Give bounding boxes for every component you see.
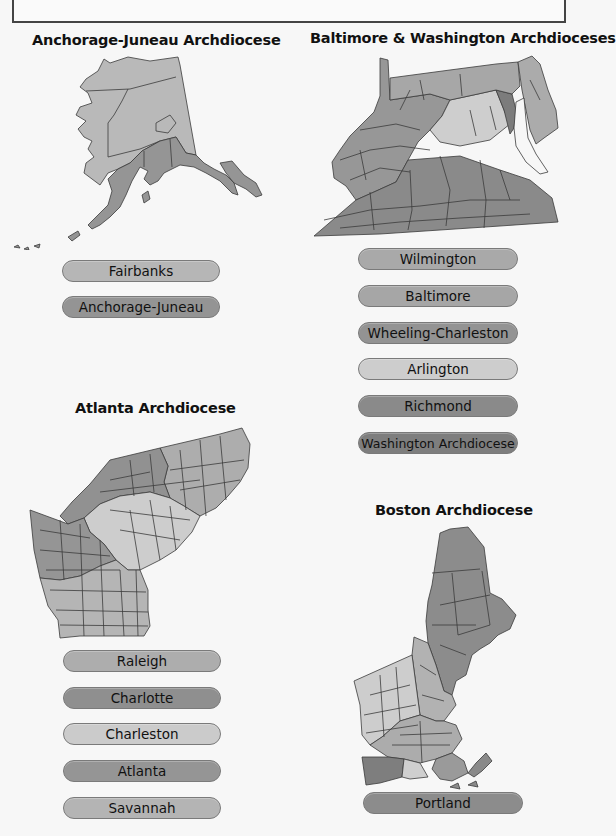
diocese-savannah: Savannah — [63, 797, 221, 819]
diocese-fairbanks: Fairbanks — [62, 260, 220, 282]
diocese-portland: Portland — [363, 792, 523, 814]
southeast-map — [0, 420, 290, 645]
diocese-label: Charlotte — [111, 690, 174, 706]
baltimore-washington-title: Baltimore & Washington Archdioceses — [310, 30, 616, 46]
diocese-label: Baltimore — [405, 288, 470, 304]
header-box — [12, 0, 566, 23]
diocese-label: Washington Archdiocese — [361, 436, 514, 451]
diocese-label: Wheeling-Charleston — [367, 325, 508, 341]
diocese-label: Fairbanks — [109, 263, 173, 279]
diocese-charlotte: Charlotte — [63, 687, 221, 709]
diocese-anchorage-juneau: Anchorage-Juneau — [62, 296, 220, 318]
diocese-richmond: Richmond — [358, 395, 518, 417]
diocese-label: Charleston — [105, 726, 178, 742]
diocese-label: Arlington — [407, 361, 469, 377]
diocese-label: Portland — [415, 795, 471, 811]
diocese-label: Anchorage-Juneau — [79, 299, 204, 315]
diocese-charleston: Charleston — [63, 723, 221, 745]
diocese-atlanta: Atlanta — [63, 760, 221, 782]
diocese-arlington: Arlington — [358, 358, 518, 380]
diocese-label: Wilmington — [400, 251, 477, 267]
boston-title: Boston Archdiocese — [375, 502, 533, 518]
diocese-label: Atlanta — [118, 763, 166, 779]
virginia-maryland-map — [300, 50, 579, 245]
diocese-wheeling-charleston: Wheeling-Charleston — [358, 322, 518, 344]
diocese-raleigh: Raleigh — [63, 650, 221, 672]
diocese-label: Savannah — [108, 800, 175, 816]
diocese-wilmington: Wilmington — [358, 248, 518, 270]
new-england-map — [340, 525, 540, 790]
diocese-washington: Washington Archdiocese — [358, 432, 518, 454]
diocese-label: Richmond — [404, 398, 472, 414]
alaska-map — [0, 45, 290, 250]
diocese-baltimore: Baltimore — [358, 285, 518, 307]
atlanta-title: Atlanta Archdiocese — [75, 400, 236, 416]
diocese-label: Raleigh — [117, 653, 167, 669]
